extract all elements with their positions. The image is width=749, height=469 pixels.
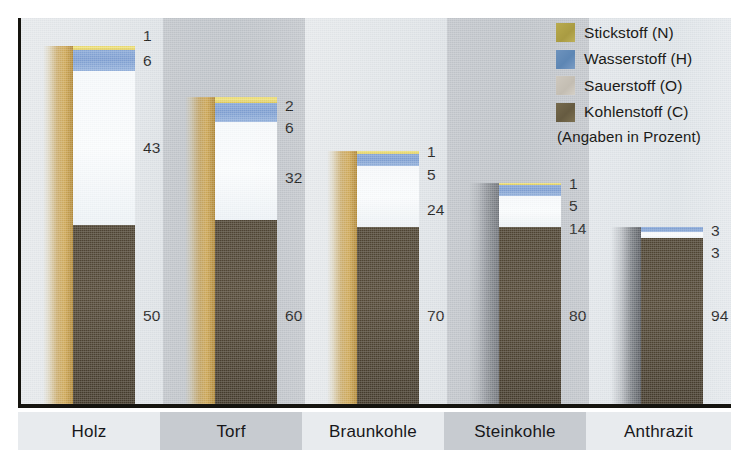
segment-steinkohle-kohlenstoff — [499, 227, 561, 404]
bar-side-torf — [185, 97, 215, 404]
legend-unit-note: (Angaben in Prozent) — [557, 128, 738, 145]
legend-label-sauerstoff: Sauerstoff (O) — [584, 77, 682, 95]
value-steinkohle-kohlenstoff: 80 — [569, 308, 587, 324]
value-steinkohle-sauerstoff: 14 — [569, 221, 587, 237]
bar-steinkohle[interactable] — [499, 183, 561, 404]
category-axis: Holz Torf Braunkohle Steinkohle Anthrazi… — [18, 412, 731, 450]
value-anthrazit-kohlenstoff: 94 — [711, 308, 729, 324]
bar-stack-steinkohle — [499, 183, 561, 404]
segment-anthrazit-kohlenstoff — [641, 238, 703, 404]
legend-swatch-stickstoff — [556, 23, 575, 42]
value-torf-kohlenstoff: 60 — [285, 308, 303, 324]
category-label-steinkohle: Steinkohle — [444, 419, 586, 445]
value-torf-stickstoff: 2 — [285, 98, 294, 114]
legend-swatch-kohlenstoff — [556, 103, 575, 122]
segment-braunkohle-kohlenstoff — [357, 227, 419, 404]
chart-figure: 1 6 43 50 2 6 32 60 1 — [0, 0, 749, 469]
legend-item-kohlenstoff[interactable]: Kohlenstoff (C) — [556, 102, 738, 123]
segment-braunkohle-sauerstoff — [357, 166, 419, 227]
bar-side-steinkohle — [469, 183, 499, 404]
category-label-braunkohle: Braunkohle — [302, 419, 444, 445]
value-braunkohle-stickstoff: 1 — [427, 144, 436, 160]
value-torf-sauerstoff: 32 — [285, 170, 303, 186]
value-holz-sauerstoff: 43 — [143, 140, 161, 156]
category-label-anthrazit: Anthrazit — [586, 419, 731, 445]
legend-swatch-sauerstoff — [556, 76, 575, 95]
bar-stack-holz — [73, 46, 135, 404]
segment-braunkohle-wasserstoff — [357, 154, 419, 167]
segment-torf-kohlenstoff — [215, 220, 277, 404]
legend-label-wasserstoff: Wasserstoff (H) — [584, 50, 692, 68]
segment-torf-sauerstoff — [215, 122, 277, 220]
bar-stack-braunkohle — [357, 151, 419, 404]
bar-side-holz — [43, 46, 73, 404]
value-torf-wasserstoff: 6 — [285, 120, 294, 136]
segment-holz-kohlenstoff — [73, 225, 135, 404]
legend-label-stickstoff: Stickstoff (N) — [584, 24, 674, 42]
value-anthrazit-wasserstoff: 3 — [711, 223, 720, 239]
legend-item-sauerstoff[interactable]: Sauerstoff (O) — [556, 75, 738, 96]
segment-steinkohle-wasserstoff — [499, 185, 561, 196]
bar-stack-torf — [215, 97, 277, 404]
bar-anthrazit[interactable] — [641, 227, 703, 404]
legend-swatch-wasserstoff — [556, 50, 575, 69]
bar-side-braunkohle — [327, 151, 357, 404]
legend: Stickstoff (N) Wasserstoff (H) Sauerstof… — [556, 22, 738, 145]
segment-holz-wasserstoff — [73, 50, 135, 71]
value-braunkohle-kohlenstoff: 70 — [427, 308, 445, 324]
bar-torf[interactable] — [215, 97, 277, 404]
bar-braunkohle[interactable] — [357, 151, 419, 404]
bar-holz[interactable] — [73, 46, 135, 404]
segment-steinkohle-sauerstoff — [499, 196, 561, 227]
value-braunkohle-sauerstoff: 24 — [427, 202, 445, 218]
bar-stack-anthrazit — [641, 227, 703, 404]
legend-item-stickstoff[interactable]: Stickstoff (N) — [556, 22, 738, 43]
legend-label-kohlenstoff: Kohlenstoff (C) — [584, 103, 689, 121]
value-steinkohle-wasserstoff: 5 — [569, 198, 578, 214]
value-anthrazit-sauerstoff: 3 — [711, 245, 720, 261]
category-label-torf: Torf — [160, 419, 302, 445]
value-holz-kohlenstoff: 50 — [143, 308, 161, 324]
category-label-holz: Holz — [18, 419, 160, 445]
value-holz-wasserstoff: 6 — [143, 53, 152, 69]
value-holz-stickstoff: 1 — [143, 28, 152, 44]
segment-holz-sauerstoff — [73, 71, 135, 225]
value-braunkohle-wasserstoff: 5 — [427, 167, 436, 183]
segment-torf-wasserstoff — [215, 103, 277, 121]
bar-side-anthrazit — [611, 227, 641, 404]
legend-item-wasserstoff[interactable]: Wasserstoff (H) — [556, 49, 738, 70]
value-steinkohle-stickstoff: 1 — [569, 176, 578, 192]
